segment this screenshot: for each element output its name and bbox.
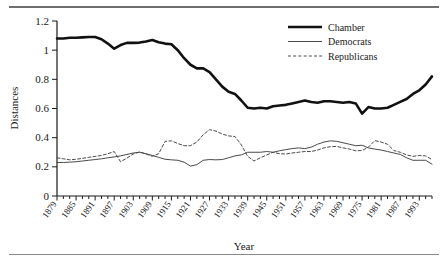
y-tick-label: 1.2 [35,15,49,27]
series-line-democrats [57,141,432,166]
x-tick-label: 1975 [345,199,364,220]
x-tick-labels: 1879188518911897190319091915192119271933… [40,199,421,220]
x-axis-title: Year [234,240,255,252]
x-tick-label: 1879 [40,199,59,220]
x-tick-label: 1945 [250,199,269,220]
top-rule-divider [9,6,439,8]
x-tick-label: 1939 [231,199,250,220]
y-tick-label: 0.8 [35,73,49,85]
chart-legend: ChamberDemocratsRepublicans [288,22,378,62]
x-tick-label: 1969 [326,199,345,220]
x-tick-label: 1921 [174,199,193,219]
x-tick-label: 1951 [269,199,288,219]
x-tick-label: 1903 [116,199,135,220]
x-tick-label: 1897 [97,199,116,220]
x-tick-label: 1927 [193,199,212,220]
figure-container: 00.20.40.60.811.2 1879188518911897190319… [0,0,448,263]
x-tick-label: 1957 [288,199,307,220]
bottom-rule-divider [9,254,439,255]
y-tick-labels: 00.20.40.60.811.2 [35,15,49,202]
y-tick-label: 0.2 [35,160,49,172]
legend-label-democrats: Democrats [328,36,371,47]
x-tick-label: 1909 [135,199,154,220]
x-tick-label: 1885 [59,199,78,220]
x-axis: 1879188518911897190319091915192119271933… [40,196,432,220]
y-axis: 00.20.40.60.811.2 [35,15,57,202]
x-tick-label: 1915 [155,199,174,220]
legend-label-chamber: Chamber [328,22,365,33]
x-tick-label: 1987 [383,199,402,220]
x-tick-label: 1891 [78,199,97,219]
x-tick-label: 1981 [364,199,383,219]
x-tick-marks [57,196,432,201]
x-tick-label: 1963 [307,199,326,220]
legend-label-republicans: Republicans [328,51,378,62]
series-line-chamber [57,37,432,114]
y-axis-title: Distances [8,87,20,130]
line-chart: 00.20.40.60.811.2 1879188518911897190319… [0,0,448,263]
x-tick-label: 1993 [402,199,421,220]
y-tick-label: 0 [44,190,50,202]
x-tick-label: 1933 [212,199,231,220]
y-tick-label: 0.4 [35,131,49,143]
y-tick-label: 0.6 [35,102,49,114]
y-tick-label: 1 [44,44,50,56]
y-tick-marks [52,21,57,196]
